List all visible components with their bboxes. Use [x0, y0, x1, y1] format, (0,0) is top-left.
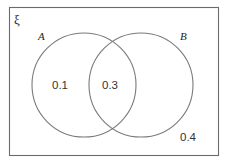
venn-diagram: ξ A B 0.1 0.3 0.4: [0, 0, 227, 164]
set-a-label: A: [37, 30, 45, 42]
region-value-outside: 0.4: [180, 131, 197, 143]
set-a-circle: [32, 33, 136, 137]
venn-canvas: ξ A B 0.1 0.3 0.4: [0, 0, 227, 164]
set-b-label: B: [180, 30, 187, 42]
universal-set-label: ξ: [14, 12, 20, 27]
region-value-intersection: 0.3: [102, 79, 118, 91]
region-value-a-only: 0.1: [52, 79, 68, 91]
